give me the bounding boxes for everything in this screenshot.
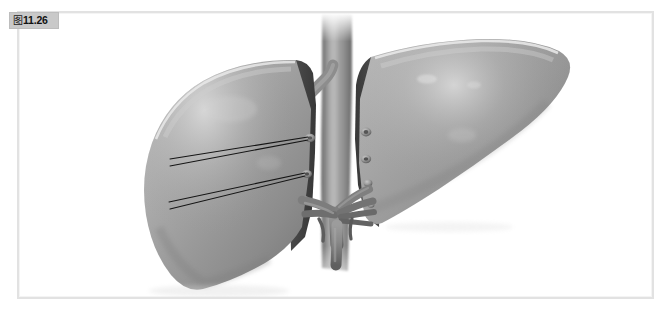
figure-number-badge: 图 11.26 [9, 12, 59, 29]
right-lobe-shadow [385, 222, 513, 232]
figure-number-label: 11.26 [23, 15, 48, 26]
right-hepatic-lobe [355, 39, 570, 227]
artery-twig-right [350, 219, 352, 239]
screenshot-root: 图 11.26 [0, 0, 671, 320]
left-hepatic-lobe [144, 60, 316, 290]
portal-branch-right-fourth [341, 221, 371, 224]
left-lobe-shadow [149, 285, 289, 297]
figure-cjk-glyph: 图 [13, 16, 23, 26]
illustration-canvas [19, 13, 652, 297]
liver-anatomy-illustration [19, 13, 652, 297]
left-lobe-sheen [144, 60, 311, 290]
portal-branch-left-lower [305, 213, 335, 215]
